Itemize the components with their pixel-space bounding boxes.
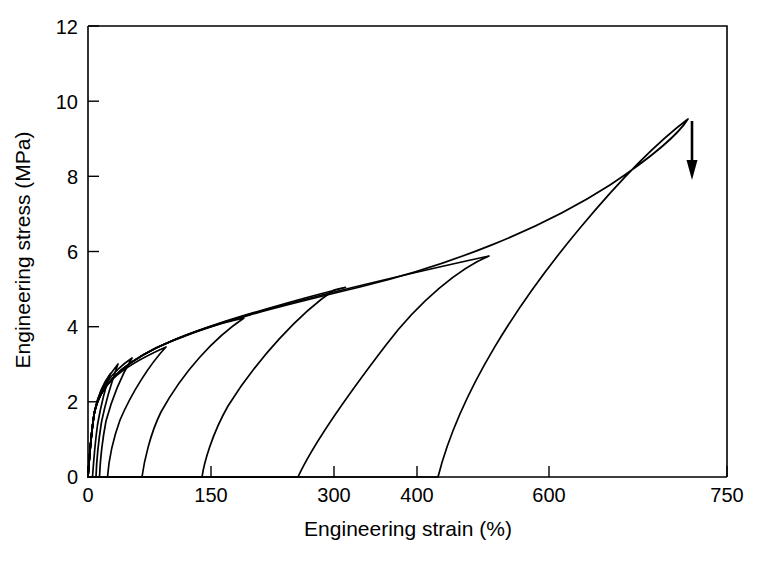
x-tick-labels: 0 150 300 400 600 750 <box>82 484 743 506</box>
stress-strain-chart: 0 2 4 6 8 10 12 0 150 300 400 600 750 <box>0 0 762 565</box>
y-tick-labels: 0 2 4 6 8 10 12 <box>56 16 78 489</box>
x-ticks <box>88 466 727 477</box>
x-tick-label-400: 400 <box>400 484 433 506</box>
axis-frame-top-right <box>88 26 727 477</box>
hysteresis-loop-6 <box>88 287 345 477</box>
y-tick-label-2: 2 <box>67 391 78 413</box>
x-axis-label: Engineering strain (%) <box>304 517 512 540</box>
x-tick-label-300: 300 <box>317 484 350 506</box>
x-tick-label-600: 600 <box>532 484 565 506</box>
x-tick-label-150: 150 <box>194 484 227 506</box>
y-tick-label-4: 4 <box>67 316 78 338</box>
y-tick-label-8: 8 <box>67 166 78 188</box>
failure-arrow <box>687 121 698 180</box>
axes-frame <box>88 26 727 477</box>
hysteresis-loop-8 <box>88 119 688 477</box>
chart-svg: 0 2 4 6 8 10 12 0 150 300 400 600 750 <box>0 0 762 565</box>
y-tick-label-0: 0 <box>67 466 78 488</box>
y-tick-label-12: 12 <box>56 16 78 38</box>
axis-lines <box>88 26 727 477</box>
x-tick-label-0: 0 <box>82 484 93 506</box>
y-tick-label-6: 6 <box>67 241 78 263</box>
x-tick-label-750: 750 <box>710 484 743 506</box>
hysteresis-loop-1 <box>88 374 111 478</box>
y-ticks <box>88 26 99 477</box>
y-axis-label: Engineering stress (MPa) <box>11 132 34 369</box>
y-tick-label-10: 10 <box>56 91 78 113</box>
